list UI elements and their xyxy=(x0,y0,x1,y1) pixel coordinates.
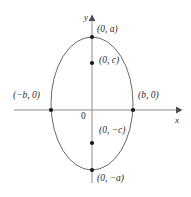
label-right-covertex: (b, 0) xyxy=(138,91,159,101)
label-top-vertex: (0, a) xyxy=(97,25,118,35)
label-lower-focus: (0, −c) xyxy=(99,126,125,136)
label-origin: 0 xyxy=(81,112,86,122)
label-y-axis: y xyxy=(84,13,88,22)
label-upper-focus: (0, c) xyxy=(99,56,119,66)
point-left-covertex xyxy=(49,108,53,112)
point-upper-focus xyxy=(90,61,94,65)
label-bottom-vertex: (0, −a) xyxy=(97,174,124,184)
point-right-covertex xyxy=(131,108,135,112)
label-left-covertex: (−b, 0) xyxy=(13,91,40,101)
point-bottom-vertex xyxy=(90,168,94,172)
label-x-axis: x xyxy=(175,116,179,125)
ellipse-figure: (0, a) (0, c) (−b, 0) (b, 0) (0, −c) (0,… xyxy=(0,0,191,197)
x-axis-arrowhead xyxy=(176,107,183,114)
point-top-vertex xyxy=(90,35,94,39)
y-axis-arrowhead xyxy=(89,15,96,22)
point-lower-focus xyxy=(90,141,94,145)
